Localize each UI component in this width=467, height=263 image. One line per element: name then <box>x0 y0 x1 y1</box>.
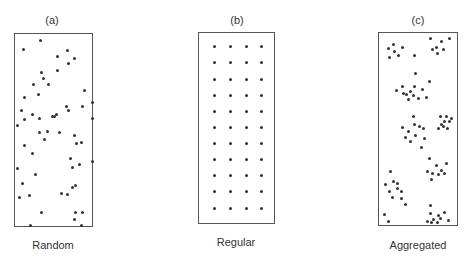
point-dot <box>448 120 451 123</box>
point-dot <box>430 178 433 181</box>
point-dot <box>29 224 32 227</box>
point-dot <box>388 190 391 193</box>
point-dot <box>260 190 263 193</box>
point-dot <box>412 94 415 97</box>
point-dot <box>395 89 398 92</box>
point-dot <box>450 117 453 120</box>
point-dot <box>431 48 434 51</box>
point-dot <box>56 55 59 58</box>
point-dot <box>409 140 412 143</box>
point-dot <box>23 96 26 99</box>
point-dot <box>401 85 404 88</box>
point-dot <box>429 204 432 207</box>
point-dot <box>67 109 70 112</box>
point-dot <box>229 126 232 129</box>
point-dot <box>431 172 434 175</box>
point-dot <box>440 40 443 43</box>
point-dot <box>229 190 232 193</box>
point-dot <box>47 83 50 86</box>
point-dot <box>213 110 216 113</box>
point-dot <box>425 96 428 99</box>
point-dot <box>245 78 248 81</box>
point-dot <box>229 142 232 145</box>
point-dot <box>38 117 41 120</box>
point-dot <box>420 146 423 149</box>
point-dot <box>418 125 421 128</box>
panel-caption-b: Regular <box>186 236 286 248</box>
point-dot <box>260 126 263 129</box>
point-dot <box>440 169 443 172</box>
point-dot <box>245 110 248 113</box>
point-dot <box>245 61 248 64</box>
point-dot <box>443 120 446 123</box>
point-dot <box>404 136 407 139</box>
point-dot <box>429 37 432 40</box>
point-dot <box>413 123 416 126</box>
panel-label-b: (b) <box>217 14 257 26</box>
point-dot <box>74 184 77 187</box>
point-dot <box>245 45 248 48</box>
point-dot <box>229 158 232 161</box>
point-dot <box>71 186 74 189</box>
point-dot <box>245 207 248 210</box>
point-dot <box>229 45 232 48</box>
point-dot <box>389 170 392 173</box>
point-dot <box>448 37 451 40</box>
point-dot <box>229 110 232 113</box>
point-dot <box>22 48 25 51</box>
point-dot <box>260 61 263 64</box>
point-dot <box>213 207 216 210</box>
point-dot <box>426 170 429 173</box>
point-dot <box>428 157 431 160</box>
point-dot <box>387 220 390 223</box>
point-dot <box>429 212 432 215</box>
point-dot <box>446 127 449 130</box>
point-dot <box>83 89 86 92</box>
point-dot <box>21 182 24 185</box>
plot-box-b <box>198 32 275 224</box>
point-dot <box>42 77 45 80</box>
point-dot <box>397 54 400 57</box>
point-dot <box>55 113 58 116</box>
point-dot <box>58 131 61 134</box>
point-dot <box>443 172 446 175</box>
point-dot <box>56 69 59 72</box>
point-dot <box>66 193 69 196</box>
point-dot <box>23 144 26 147</box>
point-dot <box>396 182 399 185</box>
point-dot <box>435 164 438 167</box>
point-dot <box>407 98 410 101</box>
point-dot <box>442 125 445 128</box>
point-dot <box>414 72 417 75</box>
point-dot <box>417 97 420 100</box>
point-dot <box>60 192 63 195</box>
panel-label-a: (a) <box>32 14 72 26</box>
point-dot <box>37 93 40 96</box>
point-dot <box>387 47 390 50</box>
point-dot <box>229 174 232 177</box>
point-dot <box>435 46 438 49</box>
point-dot <box>28 194 31 197</box>
point-dot <box>413 85 416 88</box>
point-dot <box>69 157 72 160</box>
point-dot <box>439 217 442 220</box>
point-dot <box>400 197 403 200</box>
point-dot <box>31 152 34 155</box>
point-dot <box>430 221 433 224</box>
point-dot <box>213 61 216 64</box>
point-dot <box>260 142 263 145</box>
point-dot <box>260 110 263 113</box>
point-dot <box>43 138 46 141</box>
point-dot <box>436 221 439 224</box>
panel-label-c: (c) <box>398 14 438 26</box>
point-dot <box>442 48 445 51</box>
point-dot <box>40 71 43 74</box>
point-dot <box>16 124 19 127</box>
point-dot <box>401 126 404 129</box>
point-dot <box>426 220 429 223</box>
point-dot <box>229 78 232 81</box>
point-dot <box>432 218 435 221</box>
point-dot <box>392 180 395 183</box>
point-dot <box>245 158 248 161</box>
point-dot <box>260 174 263 177</box>
